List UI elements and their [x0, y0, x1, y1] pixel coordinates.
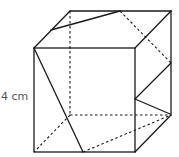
bottom-right-depth-edge [135, 115, 171, 152]
cube-diagram [0, 0, 179, 157]
section-line-right-lower [135, 99, 170, 114]
section-line-front-face [34, 48, 83, 152]
top-right-depth-edge [135, 11, 171, 48]
side-length-label: 4 cm [1, 90, 28, 103]
section-line-right-upper [135, 63, 171, 99]
section-line-bottom [83, 115, 171, 152]
bottom-left-depth-edge [34, 115, 70, 152]
